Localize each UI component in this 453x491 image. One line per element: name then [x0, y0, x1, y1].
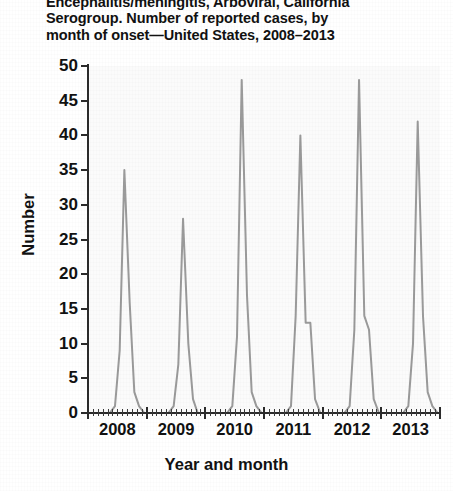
y-tick-15 [81, 308, 89, 310]
x-tick-minor [156, 409, 157, 416]
y-tick-label-0: 0 [38, 404, 78, 421]
x-tick-minor [93, 409, 94, 416]
x-tick-minor [357, 409, 358, 416]
x-tick-minor [108, 409, 109, 416]
y-tick-50 [81, 65, 89, 67]
x-tick-minor [117, 409, 118, 416]
x-tick-minor [112, 409, 113, 416]
x-tick-minor [293, 409, 294, 416]
x-tick-minor [401, 409, 402, 416]
y-axis-title: Number [19, 175, 38, 275]
x-tick-minor [352, 409, 353, 416]
x-tick-minor [186, 409, 187, 416]
x-tick-major-2012 [322, 407, 324, 419]
x-tick-minor [191, 409, 192, 416]
x-tick-minor [122, 409, 123, 416]
x-tick-minor [284, 409, 285, 416]
x-tick-minor [235, 409, 236, 416]
x-tick-minor [279, 409, 280, 416]
x-tick-minor [372, 409, 373, 416]
x-tick-minor [210, 409, 211, 416]
x-tick-minor [420, 409, 421, 416]
y-tick-label-40: 40 [38, 126, 78, 143]
x-tick-minor [367, 409, 368, 416]
x-tick-major-2010 [204, 407, 206, 419]
y-tick-10 [81, 343, 89, 345]
x-tick-minor [249, 409, 250, 416]
figure-container: Encephalitis/meningitis, Arboviral, Cali… [0, 0, 453, 491]
x-tick-minor [244, 409, 245, 416]
x-tick-minor [142, 409, 143, 416]
x-tick-minor [181, 409, 182, 416]
y-tick-label-5: 5 [38, 369, 78, 386]
x-tick-minor [274, 409, 275, 416]
y-tick-label-15: 15 [38, 300, 78, 317]
x-tick-minor [137, 409, 138, 416]
x-tick-minor [269, 409, 270, 416]
x-tick-minor [240, 409, 241, 416]
y-tick-label-10: 10 [38, 335, 78, 352]
y-tick-label-30: 30 [38, 196, 78, 213]
x-tick-minor [200, 409, 201, 416]
x-tick-minor [416, 409, 417, 416]
x-tick-minor [196, 409, 197, 416]
x-tick-minor [166, 409, 167, 416]
x-tick-minor [362, 409, 363, 416]
y-tick-45 [81, 100, 89, 102]
x-tick-major-2013 [380, 407, 382, 419]
x-tick-minor [308, 409, 309, 416]
x-tick-minor [376, 409, 377, 416]
x-tick-minor [425, 409, 426, 416]
y-tick-25 [81, 239, 89, 241]
x-tick-minor [98, 409, 99, 416]
x-tick-minor [406, 409, 407, 416]
data-line-series [88, 66, 440, 413]
x-tick-minor [288, 409, 289, 416]
x-tick-major-2014 [439, 407, 441, 419]
y-tick-20 [81, 273, 89, 275]
x-tick-major-2008 [87, 407, 89, 419]
x-tick-minor [332, 409, 333, 416]
y-tick-label-50: 50 [38, 57, 78, 74]
x-tick-minor [220, 409, 221, 416]
x-tick-minor [152, 409, 153, 416]
y-tick-label-45: 45 [38, 92, 78, 109]
x-tick-minor [328, 409, 329, 416]
x-tick-minor [171, 409, 172, 416]
x-tick-major-2011 [263, 407, 265, 419]
x-tick-minor [230, 409, 231, 416]
x-tick-minor [386, 409, 387, 416]
y-tick-label-20: 20 [38, 265, 78, 282]
x-tick-minor [127, 409, 128, 416]
x-tick-minor [161, 409, 162, 416]
y-tick-label-25: 25 [38, 231, 78, 248]
x-tick-minor [313, 409, 314, 416]
x-tick-minor [430, 409, 431, 416]
plot-area [88, 66, 440, 413]
x-tick-minor [337, 409, 338, 416]
x-tick-minor [176, 409, 177, 416]
x-tick-label-2013: 2013 [376, 420, 446, 439]
y-tick-5 [81, 377, 89, 379]
x-tick-minor [259, 409, 260, 416]
y-tick-35 [81, 169, 89, 171]
x-tick-minor [391, 409, 392, 416]
x-tick-minor [342, 409, 343, 416]
chart-title-line-3: month of onset—United States, 2008–2013 [46, 27, 446, 44]
x-tick-minor [435, 409, 436, 416]
x-tick-minor [396, 409, 397, 416]
x-tick-minor [132, 409, 133, 416]
x-tick-minor [215, 409, 216, 416]
x-tick-minor [225, 409, 226, 416]
x-tick-minor [303, 409, 304, 416]
x-tick-major-2009 [146, 407, 148, 419]
y-tick-30 [81, 204, 89, 206]
chart-title-line-2: Serogroup. Number of reported cases, by [46, 10, 446, 27]
y-tick-40 [81, 134, 89, 136]
chart-title: Encephalitis/meningitis, Arboviral, Cali… [46, 0, 446, 44]
x-tick-minor [103, 409, 104, 416]
x-tick-minor [254, 409, 255, 416]
x-tick-minor [298, 409, 299, 416]
y-tick-label-35: 35 [38, 161, 78, 178]
x-tick-minor [411, 409, 412, 416]
